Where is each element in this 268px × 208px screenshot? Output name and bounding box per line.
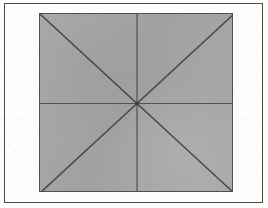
shaded-square (39, 13, 233, 192)
figure-line-overlay (40, 14, 233, 192)
figure-canvas (0, 0, 268, 208)
center-intersection (135, 102, 138, 105)
